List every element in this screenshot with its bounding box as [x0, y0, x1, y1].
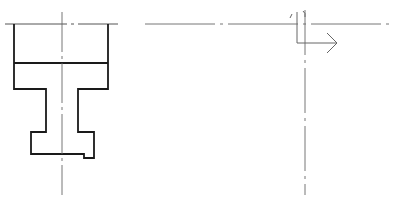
- drawing-canvas: [0, 0, 413, 200]
- part-outline: [14, 24, 108, 158]
- technical-drawing: [0, 0, 413, 200]
- section-cut-bracket-left: [290, 14, 292, 18]
